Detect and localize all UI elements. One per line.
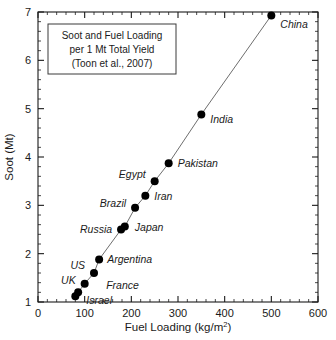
data-point-japan (121, 223, 129, 231)
data-point-brazil (131, 204, 139, 212)
chart-figure: 0100200300400500600 1234567 IsraelFrance… (0, 0, 336, 340)
y-tick-label: 1 (25, 296, 31, 308)
point-label-uk: UK (61, 274, 77, 286)
annotation-line-3: (Toon et al., 2007) (72, 58, 153, 69)
y-axis-title: Soot (Mt) (3, 133, 15, 180)
x-tick-label: 100 (75, 307, 93, 319)
point-label-france: France (106, 279, 139, 291)
x-axis-tick-labels: 0100200300400500600 (35, 307, 327, 319)
data-point-china (267, 11, 275, 19)
scatter-plot: 0100200300400500600 1234567 IsraelFrance… (0, 0, 336, 340)
point-label-brazil: Brazil (100, 197, 127, 209)
x-tick-label: 600 (309, 307, 327, 319)
point-label-japan: Japan (134, 221, 164, 233)
y-tick-label: 5 (25, 103, 31, 115)
data-point-france (74, 288, 82, 296)
point-label-pakistan: Pakistan (178, 157, 218, 169)
x-tick-label: 500 (262, 307, 280, 319)
y-tick-label: 7 (25, 6, 31, 18)
y-tick-label: 4 (25, 151, 31, 163)
x-axis-title: Fuel Loading (kg/m2) (125, 320, 232, 333)
x-tick-label: 400 (215, 307, 233, 319)
point-label-egypt: Egypt (119, 168, 147, 180)
x-tick-label: 300 (169, 307, 187, 319)
x-tick-label: 200 (122, 307, 140, 319)
point-label-russia: Russia (80, 223, 112, 235)
point-label-argentina: Argentina (106, 253, 152, 265)
data-point-india (197, 110, 205, 118)
point-label-china: China (280, 18, 308, 30)
y-tick-label: 2 (25, 248, 31, 260)
point-label-israel: Israel (86, 294, 112, 306)
data-point-egypt (151, 177, 159, 185)
annotation-box: Soot and Fuel Loading per 1 Mt Total Yie… (48, 24, 176, 74)
x-tick-label: 0 (35, 307, 41, 319)
point-label-iran: Iran (154, 190, 172, 202)
y-tick-label: 6 (25, 54, 31, 66)
data-point-pakistan (165, 159, 173, 167)
point-label-us: US (70, 259, 85, 271)
annotation-line-2: per 1 Mt Total Yield (70, 44, 155, 55)
y-axis-tick-labels: 1234567 (25, 6, 31, 308)
y-tick-label: 3 (25, 199, 31, 211)
data-point-iran (141, 192, 149, 200)
point-label-india: India (210, 113, 233, 125)
data-point-argentina (95, 255, 103, 263)
annotation-line-1: Soot and Fuel Loading (62, 30, 163, 41)
data-point-uk (81, 280, 89, 288)
data-point-us (90, 269, 98, 277)
